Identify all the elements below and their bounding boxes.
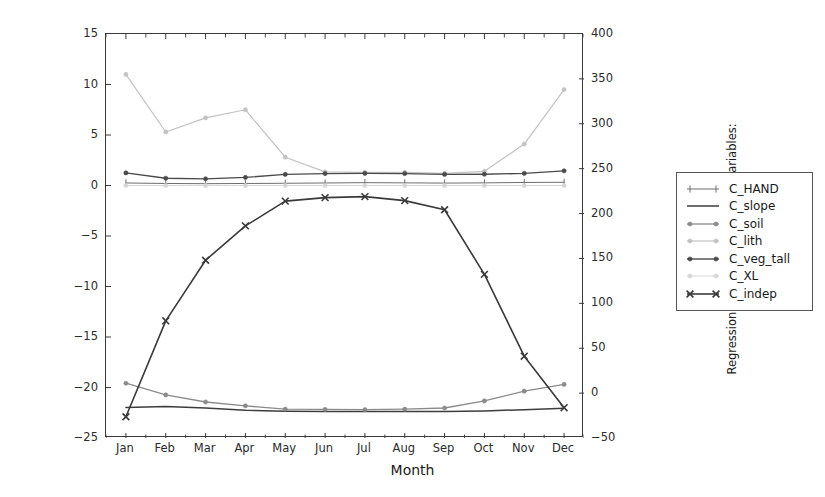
legend-label: C_HAND (729, 182, 779, 196)
plot-svg (106, 34, 584, 438)
y-tick-left: 5 (58, 127, 98, 141)
legend-label: C_soil (729, 217, 764, 231)
chart-page: Regression coefficients [-] for the vari… (0, 0, 825, 497)
legend-swatch-dot-icon (684, 252, 722, 266)
y-tick-left: 15 (58, 26, 98, 40)
y-tick-right: 0 (591, 385, 631, 399)
legend-item-c-soil[interactable]: C_soil (684, 215, 804, 233)
y-tick-right: 300 (591, 116, 631, 130)
legend-label: C_slope (729, 199, 775, 213)
series-c-veg-tall (124, 169, 566, 181)
y-tick-left: −10 (58, 279, 98, 293)
legend-swatch-dot-icon (684, 234, 722, 248)
y-tick-right: 100 (591, 295, 631, 309)
legend-swatch-none-icon (684, 199, 722, 213)
legend-swatch-x-icon (684, 287, 722, 301)
y-tick-right: 50 (591, 340, 631, 354)
y-tick-left: 10 (58, 77, 98, 91)
y-tick-right: 250 (591, 161, 631, 175)
legend-label: C_lith (729, 234, 762, 248)
legend-label: C_XL (729, 269, 758, 283)
plot-area (105, 33, 583, 437)
y-tick-left: −5 (58, 228, 98, 242)
legend-item-c-indep[interactable]: C_indep (684, 285, 804, 303)
series-c-indep (123, 193, 568, 420)
y-tick-left: −25 (58, 430, 98, 444)
y-tick-left: −15 (58, 329, 98, 343)
legend-swatch-dot-icon (684, 269, 722, 283)
y-tick-right: −50 (591, 430, 631, 444)
legend-item-c-xl[interactable]: C_XL (684, 268, 804, 286)
y-tick-right: 200 (591, 206, 631, 220)
legend-swatch-dot-icon (684, 217, 722, 231)
legend-label: C_indep (729, 287, 777, 301)
legend-item-c-slope[interactable]: C_slope (684, 198, 804, 216)
x-axis-title: Month (0, 462, 825, 478)
y-tick-right: 400 (591, 26, 631, 40)
y-tick-right: 150 (591, 250, 631, 264)
legend-item-c-hand[interactable]: C_HAND (684, 180, 804, 198)
y-tick-right: 350 (591, 71, 631, 85)
y-tick-left: 0 (58, 178, 98, 192)
legend-item-c-lith[interactable]: C_lith (684, 233, 804, 251)
legend-swatch-plus-icon (684, 182, 722, 196)
chart-legend: C_HANDC_slopeC_soilC_lithC_veg_tallC_XLC… (676, 172, 813, 311)
y-tick-left: −20 (58, 380, 98, 394)
legend-item-c-veg-tall[interactable]: C_veg_tall (684, 250, 804, 268)
x-tick-label: Dec (538, 441, 588, 455)
series-c-lith (124, 72, 566, 175)
legend-label: C_veg_tall (729, 252, 790, 266)
